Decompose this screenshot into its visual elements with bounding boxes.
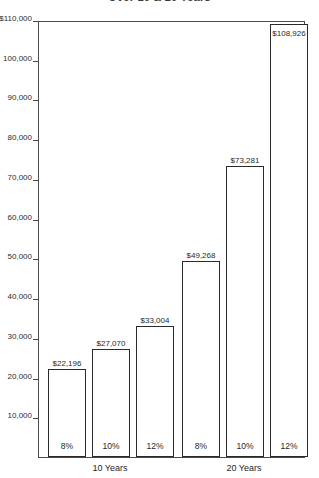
- bar-value-label: $108,926: [272, 29, 305, 38]
- bar: $22,1968%: [48, 369, 86, 457]
- y-axis-tick-label: 80,000: [8, 133, 32, 142]
- bar-value-label: $49,268: [187, 251, 216, 260]
- bar-category-label: 8%: [61, 442, 73, 451]
- bar: $27,07010%: [92, 349, 130, 457]
- bar-value-label: $22,196: [53, 359, 82, 368]
- y-axis-tick-label: $110,000: [0, 14, 32, 23]
- bar-category-label: 8%: [195, 442, 207, 451]
- bar-value-label: $73,281: [231, 156, 260, 165]
- bar-category-label: 10%: [236, 442, 253, 451]
- x-axis-group-label: 10 Years: [92, 463, 127, 473]
- y-axis: $110,000100,00090,00080,00070,00060,0005…: [0, 0, 38, 478]
- chart-title: Over 10 & 20 Years: [0, 0, 319, 3]
- bar-chart: Over 10 & 20 Years $110,000100,00090,000…: [0, 0, 319, 478]
- bar: $49,2688%: [182, 261, 220, 457]
- y-axis-tick-label: 10,000: [8, 411, 32, 420]
- bar-value-label: $27,070: [97, 339, 126, 348]
- y-axis-tick-label: 90,000: [8, 93, 32, 102]
- bar: $108,92612%: [270, 24, 308, 457]
- x-axis-group-label: 20 Years: [226, 463, 261, 473]
- bar-value-label: $33,004: [141, 316, 170, 325]
- y-axis-tick-label: 50,000: [8, 252, 32, 261]
- y-axis-tick-label: 30,000: [8, 332, 32, 341]
- bar: $33,00412%: [136, 326, 174, 457]
- plot-area: $22,1968%$27,07010%$33,00412%$49,2688%$7…: [38, 21, 305, 458]
- bar: $73,28110%: [226, 166, 264, 457]
- bar-category-label: 10%: [102, 442, 119, 451]
- y-axis-tick-label: 60,000: [8, 213, 32, 222]
- bar-category-label: 12%: [146, 442, 163, 451]
- y-axis-tick-label: 70,000: [8, 173, 32, 182]
- y-axis-tick-label: 40,000: [8, 292, 32, 301]
- y-axis-tick-label: 100,000: [3, 54, 32, 63]
- bar-category-label: 12%: [280, 442, 297, 451]
- y-axis-tick-label: 20,000: [8, 372, 32, 381]
